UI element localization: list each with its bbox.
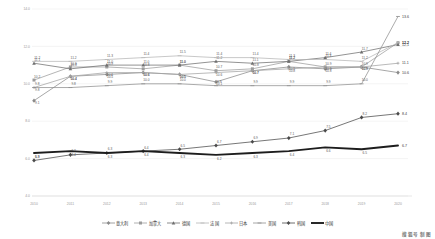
data-point-label: 6.7 bbox=[217, 140, 222, 144]
legend-item-6[interactable]: 美国 bbox=[253, 220, 276, 226]
series-end-label: 8.4 bbox=[402, 112, 407, 116]
data-point-label: 6.4 bbox=[290, 153, 295, 157]
data-point-label: 8.2 bbox=[363, 112, 368, 116]
data-point-label: 6.3 bbox=[108, 155, 113, 159]
legend-marker bbox=[167, 220, 180, 226]
x-axis-tick-label: 2016 bbox=[249, 202, 257, 206]
series-end-label: 11.1 bbox=[402, 61, 409, 65]
data-point-label: 11.4 bbox=[143, 52, 149, 56]
data-point-label: 6.4 bbox=[144, 153, 149, 157]
legend-marker bbox=[134, 220, 147, 226]
legend-marker bbox=[311, 220, 324, 226]
data-point-label: 10.6 bbox=[216, 73, 222, 77]
data-point-label: 11.1 bbox=[253, 58, 259, 62]
x-axis-tick-label: 2012 bbox=[103, 202, 111, 206]
y-axis-tick-label: 4.0 bbox=[25, 194, 30, 198]
legend-marker bbox=[102, 220, 115, 226]
data-point-label: 6.3 bbox=[108, 147, 113, 151]
data-point-marker bbox=[33, 79, 36, 82]
data-point-marker bbox=[287, 136, 291, 140]
legend-label: 日本 bbox=[239, 220, 247, 226]
data-point-label: 11.2 bbox=[71, 56, 77, 60]
data-point-label: 10.8 bbox=[70, 63, 76, 67]
legend-marker bbox=[282, 220, 295, 226]
data-point-label: 10.0 bbox=[180, 78, 186, 82]
y-axis-tick-label: 8.0 bbox=[25, 119, 30, 123]
data-point-label: 11.5 bbox=[180, 50, 186, 54]
legend-item-2[interactable]: 加拿大 bbox=[134, 220, 161, 226]
series-end-label: 13.6 bbox=[402, 15, 409, 19]
data-point-label: 9.9 bbox=[326, 80, 331, 84]
legend-item-8[interactable]: 中国 bbox=[311, 220, 334, 226]
data-point-label: 11.0 bbox=[107, 60, 113, 64]
x-axis-tick-label: 2013 bbox=[139, 202, 147, 206]
data-point-marker bbox=[178, 147, 182, 151]
legend-label: 美国 bbox=[268, 220, 276, 226]
data-point-label: 11.2 bbox=[362, 56, 368, 60]
x-axis-tick-label: 2010 bbox=[30, 202, 38, 206]
legend-item-7[interactable]: 韩国 bbox=[282, 220, 305, 226]
data-point-label: 10.2 bbox=[34, 75, 40, 79]
data-point-marker bbox=[287, 221, 291, 225]
data-point-label: 11.3 bbox=[107, 54, 113, 58]
data-point-label: 10.7 bbox=[216, 65, 222, 69]
line-chart: 14.012.010.08.06.04.02010201120122013201… bbox=[0, 0, 435, 239]
legend-item-1[interactable]: 意大利 bbox=[102, 220, 129, 226]
series-line bbox=[34, 114, 398, 161]
data-point-marker bbox=[142, 67, 145, 70]
x-axis-tick-label: 2018 bbox=[321, 202, 329, 206]
x-axis-tick-label: 2011 bbox=[67, 202, 74, 206]
data-point-label: 6.9 bbox=[253, 136, 258, 140]
series-end-label: 12.2 bbox=[402, 41, 409, 45]
data-point-label: 10.0 bbox=[143, 78, 149, 82]
y-axis-tick-label: 10.0 bbox=[23, 82, 30, 86]
data-point-label: 11.0 bbox=[180, 60, 186, 64]
legend-label: 德国 bbox=[182, 220, 190, 226]
data-point-label: 9.9 bbox=[253, 80, 258, 84]
x-axis-tick-label: 2019 bbox=[358, 202, 366, 206]
watermark-text: 搜狐号 制图 bbox=[402, 231, 431, 237]
legend-label: 中国 bbox=[325, 220, 333, 226]
data-point-label: 7.1 bbox=[290, 132, 295, 136]
series-end-label: 10.6 bbox=[402, 71, 409, 75]
data-point-label: 6.3 bbox=[35, 155, 40, 159]
data-point-label: 11.0 bbox=[143, 60, 149, 64]
legend-item-3[interactable]: 德国 bbox=[167, 220, 190, 226]
legend-item-5[interactable]: 日本 bbox=[225, 220, 248, 226]
data-point-label: 6.4 bbox=[144, 146, 149, 150]
x-axis-tick-label: 2020 bbox=[394, 202, 402, 206]
data-point-label: 6.6 bbox=[326, 149, 331, 153]
data-point-label: 6.5 bbox=[181, 144, 186, 148]
data-point-label: 11.3 bbox=[325, 54, 331, 58]
data-point-label: 6.4 bbox=[71, 153, 76, 157]
data-point-label: 9.1 bbox=[35, 101, 40, 105]
data-point-label: 10.9 bbox=[325, 67, 331, 71]
legend-label: 意大利 bbox=[116, 220, 128, 226]
legend-label: 法国 bbox=[210, 220, 218, 226]
data-point-label: 9.8 bbox=[71, 82, 76, 86]
data-point-label: 11.4 bbox=[216, 52, 222, 56]
data-point-marker bbox=[139, 222, 142, 225]
data-point-label: 6.2 bbox=[217, 157, 222, 161]
legend-marker bbox=[253, 220, 266, 226]
data-point-label: 9.8 bbox=[35, 82, 40, 86]
data-point-marker bbox=[106, 221, 110, 225]
data-point-label: 10.6 bbox=[107, 73, 113, 77]
chart-svg: 14.012.010.08.06.04.02010201120122013201… bbox=[0, 0, 435, 239]
data-point-label: 10.4 bbox=[70, 77, 76, 81]
y-axis-tick-label: 14.0 bbox=[23, 7, 30, 11]
data-point-label: 9.9 bbox=[217, 80, 222, 84]
series-end-label: 6.7 bbox=[402, 144, 407, 148]
data-point-marker bbox=[397, 62, 400, 65]
legend-marker bbox=[196, 220, 209, 226]
legend-label: 韩国 bbox=[297, 220, 305, 226]
data-point-marker bbox=[323, 128, 327, 132]
data-point-label: 9.9 bbox=[108, 80, 113, 84]
x-axis-tick-label: 2017 bbox=[285, 202, 293, 206]
data-point-marker bbox=[230, 222, 233, 225]
y-axis-tick-label: 12.0 bbox=[23, 45, 30, 49]
data-point-label: 11.3 bbox=[289, 54, 295, 58]
legend-item-4[interactable]: 法国 bbox=[196, 220, 219, 226]
data-point-label: 6.3 bbox=[181, 155, 186, 159]
data-point-label: 10.6 bbox=[143, 73, 149, 77]
